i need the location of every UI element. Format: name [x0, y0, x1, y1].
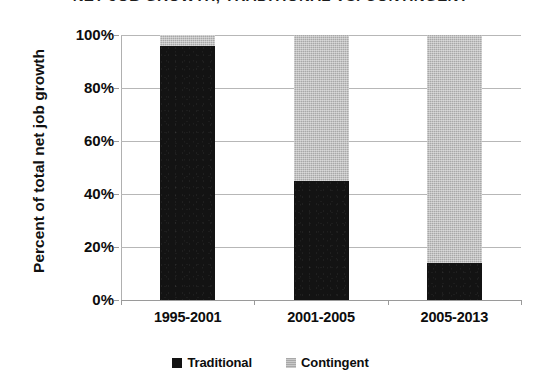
y-axis-tick: 80% — [46, 88, 114, 89]
x-axis-tick-mark — [521, 300, 522, 305]
legend-swatch-icon-traditional — [172, 358, 182, 368]
bar-segment-contingent[interactable] — [160, 35, 215, 46]
y-axis-tick-mark — [114, 247, 119, 248]
bar-group[interactable] — [160, 35, 215, 300]
bar-group[interactable] — [427, 35, 482, 300]
bar-segment-contingent[interactable] — [294, 35, 349, 181]
y-axis-tick-mark — [114, 141, 119, 142]
y-axis-tick-label: 80% — [52, 80, 114, 95]
y-axis-tick: 100% — [46, 35, 114, 36]
legend-swatch-icon-contingent — [286, 358, 296, 368]
x-axis-category-label: 2005-2013 — [384, 309, 524, 325]
x-axis-category-label: 2001-2005 — [251, 309, 391, 325]
legend-label-traditional: Traditional — [187, 355, 252, 370]
gridline — [121, 300, 521, 301]
y-axis-tick-label: 40% — [52, 186, 114, 201]
y-axis-tick-mark — [114, 88, 119, 89]
y-axis-tick-mark — [114, 300, 119, 301]
x-axis-tick-mark — [121, 300, 122, 305]
chart-title: NET JOB GROWTH, TRADITIONAL VS. CONTINGE… — [0, 0, 541, 7]
bar-group[interactable] — [294, 35, 349, 300]
x-axis-category-label: 1995-2001 — [118, 309, 258, 325]
bar-segment-traditional[interactable] — [160, 46, 215, 300]
y-axis-tick-mark — [114, 194, 119, 195]
bar-segment-traditional[interactable] — [294, 181, 349, 300]
y-axis-tick: 60% — [46, 141, 114, 142]
y-axis-tick: 0% — [46, 300, 114, 301]
bar-segment-contingent[interactable] — [427, 35, 482, 263]
x-axis-tick-mark — [388, 300, 389, 305]
y-axis-title: Percent of total net job growth — [30, 36, 48, 286]
y-axis-tick: 40% — [46, 194, 114, 195]
y-axis-tick-label: 60% — [52, 133, 114, 148]
y-axis-tick-mark — [114, 35, 119, 36]
y-axis-tick: 20% — [46, 247, 114, 248]
plot-area — [121, 35, 521, 300]
bar-segment-traditional[interactable] — [427, 263, 482, 300]
y-axis-tick-label: 20% — [52, 239, 114, 254]
x-axis-tick-mark — [254, 300, 255, 305]
stacked-bar-chart: NET JOB GROWTH, TRADITIONAL VS. CONTINGE… — [0, 0, 541, 382]
legend-item-traditional: Traditional — [172, 355, 252, 370]
legend-label-contingent: Contingent — [301, 355, 369, 370]
y-axis-tick-label: 100% — [52, 27, 114, 42]
y-axis-tick-label: 0% — [52, 292, 114, 307]
legend-item-contingent: Contingent — [286, 355, 369, 370]
chart-legend: Traditional Contingent — [0, 355, 541, 370]
